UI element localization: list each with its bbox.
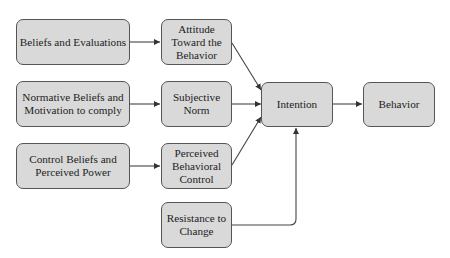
node-beliefs-and-evaluations: Beliefs and Evaluations <box>16 19 130 65</box>
node-resistance-to-change: Resistance to Change <box>161 202 232 248</box>
node-control-beliefs: Control Beliefs and Perceived Power <box>16 143 130 189</box>
node-intention: Intention <box>261 82 333 127</box>
node-perceived-behavioral-control: Perceived Behavioral Control <box>161 143 232 189</box>
diagram-canvas: Beliefs and Evaluations Normative Belief… <box>0 0 450 258</box>
node-subjective-norm: Subjective Norm <box>161 81 232 127</box>
edge-resistance-intention <box>232 128 296 225</box>
edge-attitude-intention <box>232 43 261 90</box>
node-behavior: Behavior <box>363 82 435 127</box>
node-normative-beliefs: Normative Beliefs and Motivation to comp… <box>16 81 130 127</box>
edge-perceived-intention <box>232 117 261 165</box>
node-attitude: Attitude Toward the Behavior <box>161 19 232 65</box>
